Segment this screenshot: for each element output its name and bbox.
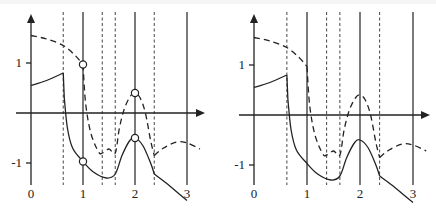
- panel-right: 1-10123: [234, 12, 430, 203]
- solid-curve-segment: [154, 174, 187, 201]
- dashed-curve-tail: [380, 144, 427, 158]
- dashed-curve-middle: [83, 65, 154, 156]
- open-circle-marker: [131, 134, 138, 141]
- diagram-figure: 1-10123 1-10123: [0, 0, 436, 208]
- solid-curve-segment: [254, 75, 287, 88]
- y-tick-label: 1: [16, 55, 23, 70]
- x-tick-label: 2: [132, 186, 139, 201]
- x-tick-label: 1: [80, 186, 87, 201]
- dashed-curve-tail: [154, 142, 200, 156]
- dashed-curve-upper: [31, 36, 83, 65]
- y-tick-label: 1: [239, 57, 246, 72]
- x-tick-label: 1: [304, 186, 311, 201]
- open-circle-marker: [79, 61, 86, 68]
- solid-curve-segment: [64, 98, 154, 178]
- dashed-curve-upper: [254, 38, 307, 67]
- solid-curve-segment: [63, 73, 64, 98]
- x-tick-label: 2: [357, 186, 364, 201]
- open-circle-marker: [79, 158, 86, 165]
- y-tick-label: -1: [234, 157, 245, 172]
- solid-curve-segment: [31, 73, 63, 86]
- dashed-curve-middle: [307, 67, 380, 158]
- y-axis-arrow-icon: [250, 14, 258, 23]
- x-axis-arrow-icon: [196, 109, 205, 117]
- x-tick-label: 3: [410, 186, 417, 201]
- open-circle-marker: [131, 89, 138, 96]
- y-axis-arrow-icon: [27, 14, 35, 23]
- x-tick-label: 0: [251, 186, 258, 201]
- y-tick-label: -1: [11, 155, 22, 170]
- solid-curve-segment: [380, 176, 413, 203]
- x-tick-label: 0: [28, 186, 35, 201]
- solid-curve-segment: [288, 100, 380, 180]
- panel-left: 1-10123: [11, 12, 205, 201]
- x-axis-arrow-icon: [421, 111, 430, 119]
